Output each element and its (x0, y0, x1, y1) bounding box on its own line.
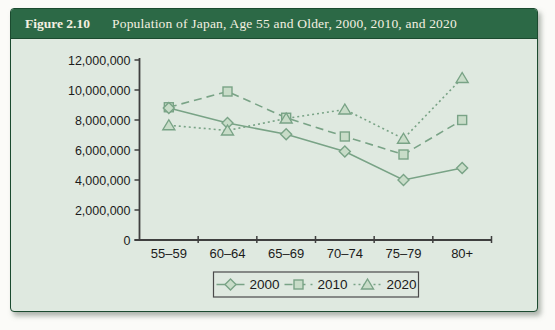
y-tick-label: 10,000,000 (67, 83, 130, 97)
legend-label-2020: 2020 (386, 277, 416, 292)
y-tick-label: 12,000,000 (67, 53, 130, 67)
figure-label: Figure 2.10 (25, 16, 90, 32)
x-category-label: 65–69 (268, 246, 304, 261)
series-2020-point (162, 119, 174, 129)
legend-label-2000: 2000 (249, 277, 279, 292)
legend-marker-2010 (294, 280, 303, 289)
series-2010-point (457, 115, 466, 124)
x-category-label: 55–59 (150, 246, 186, 261)
y-tick-label: 4,000,000 (74, 173, 130, 187)
y-tick-label: 0 (123, 233, 130, 247)
series-2020-point (221, 125, 233, 135)
y-tick-label: 2,000,000 (74, 203, 130, 217)
x-category-label: 75–79 (385, 246, 421, 261)
x-category-label: 60–64 (209, 246, 245, 261)
figure-body: 02,000,0004,000,0006,000,0008,000,00010,… (13, 41, 538, 312)
page: { "figure": { "label": "Figure 2.10", "t… (0, 0, 555, 330)
series-2020-point (338, 104, 350, 114)
x-category-label: 70–74 (326, 246, 362, 261)
figure-panel: Figure 2.10 Population of Japan, Age 55 … (10, 8, 538, 312)
legend-label-2010: 2010 (317, 277, 347, 292)
series-2020-point (397, 133, 409, 143)
y-tick-label: 8,000,000 (74, 113, 130, 127)
series-2000-line (168, 108, 461, 180)
series-2020-line (168, 78, 461, 139)
figure-header: Figure 2.10 Population of Japan, Age 55 … (11, 9, 537, 39)
population-line-chart: 02,000,0004,000,0006,000,0008,000,00010,… (13, 41, 538, 312)
y-tick-label: 6,000,000 (74, 143, 130, 157)
series-2000-point (339, 146, 350, 157)
series-2000-point (398, 174, 409, 185)
series-2020-point (456, 72, 468, 82)
x-category-label: 80+ (451, 246, 473, 261)
figure-title: Population of Japan, Age 55 and Older, 2… (112, 16, 457, 32)
series-2010-point (340, 132, 349, 141)
series-2010-point (399, 150, 408, 159)
series-2010-point (223, 87, 232, 96)
series-2000-point (280, 128, 291, 139)
series-2000-point (456, 162, 467, 173)
